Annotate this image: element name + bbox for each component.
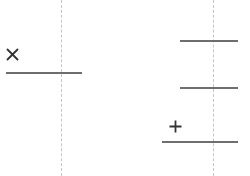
left-segment [6,72,82,74]
plus-icon[interactable] [169,120,182,133]
right-segment-middle [180,87,238,89]
close-icon[interactable] [6,48,19,61]
right-segment-top [180,40,238,42]
right-segment-bottom [162,141,238,143]
left-guide-line [61,0,62,176]
